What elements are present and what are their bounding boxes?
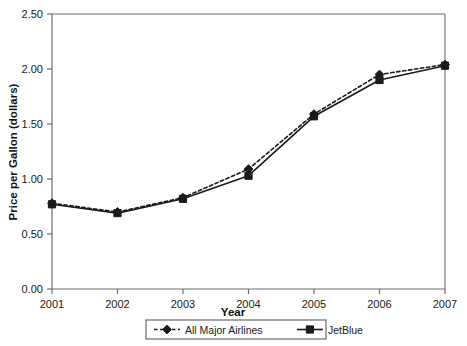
y-tick-label: 1.00 bbox=[22, 173, 43, 185]
legend-marker-sample bbox=[306, 326, 313, 333]
data-point-marker bbox=[376, 76, 383, 83]
data-point-marker bbox=[441, 62, 448, 69]
x-tick-label: 2005 bbox=[302, 298, 326, 310]
x-tick-label: 2002 bbox=[105, 298, 129, 310]
data-point-marker bbox=[114, 210, 121, 217]
y-tick-label: 0.50 bbox=[22, 228, 43, 240]
data-point-marker bbox=[48, 201, 55, 208]
y-tick-label: 1.50 bbox=[22, 118, 43, 130]
x-tick-label: 2003 bbox=[171, 298, 195, 310]
data-point-marker bbox=[310, 113, 317, 120]
x-tick-label: 2001 bbox=[40, 298, 64, 310]
y-tick-label: 2.50 bbox=[22, 8, 43, 20]
x-tick-label: 2007 bbox=[433, 298, 457, 310]
y-tick-label: 2.00 bbox=[22, 63, 43, 75]
legend-label: All Major Airlines bbox=[185, 324, 263, 336]
x-tick-label: 2006 bbox=[367, 298, 391, 310]
y-axis-title: Price per Gallon (dollars) bbox=[7, 83, 19, 220]
line-chart: 0.000.501.001.502.002.50 200120022003200… bbox=[0, 0, 467, 346]
data-point-marker bbox=[179, 195, 186, 202]
x-axis-title: Year bbox=[221, 306, 246, 318]
y-tick-label: 0.00 bbox=[22, 283, 43, 295]
legend-label: JetBlue bbox=[328, 324, 363, 336]
chart-canvas: 0.000.501.001.502.002.50 200120022003200… bbox=[0, 0, 467, 346]
data-point-marker bbox=[245, 172, 252, 179]
chart-background bbox=[0, 0, 467, 346]
